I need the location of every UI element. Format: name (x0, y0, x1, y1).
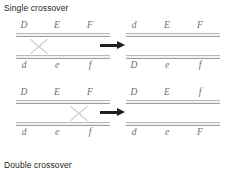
allele-label: f (83, 59, 97, 71)
allele-label: d (127, 19, 141, 31)
allele-row-bottom: d e f (16, 126, 110, 138)
double-crossover-after-panel: D E f d e F (126, 85, 221, 137)
chromosome-bar-top (126, 100, 220, 104)
allele-row-bottom: D e f (126, 59, 220, 71)
allele-label: E (160, 86, 174, 98)
allele-label: e (160, 59, 174, 71)
allele-label: D (17, 19, 31, 31)
allele-row-top: d E F (126, 19, 220, 31)
allele-label: D (127, 86, 141, 98)
allele-label: E (50, 19, 64, 31)
double-crossover-before-panel: D E F d e f (16, 85, 111, 137)
chromosome-bar-top (126, 33, 220, 37)
allele-label: F (193, 126, 207, 138)
crossover-diagram: Single crossover D E F d e f d E F D (0, 0, 226, 178)
allele-row-top: D E F (16, 86, 110, 98)
allele-label: F (83, 19, 97, 31)
allele-label: D (17, 86, 31, 98)
single-crossover-caption: Single crossover (4, 3, 68, 13)
crossover-x-icon (68, 104, 90, 122)
allele-label: D (127, 59, 141, 71)
chromosome-bar-top (16, 100, 110, 104)
allele-label: d (17, 126, 31, 138)
allele-row-top: D E F (16, 19, 110, 31)
allele-label: f (83, 126, 97, 138)
allele-label: e (50, 126, 64, 138)
allele-label: f (193, 86, 207, 98)
double-crossover-caption: Double crossover (4, 160, 72, 170)
allele-row-bottom: d e f (16, 59, 110, 71)
allele-label: d (127, 126, 141, 138)
allele-label: f (193, 59, 207, 71)
allele-label: E (50, 86, 64, 98)
single-crossover-before-panel: D E F d e f (16, 18, 111, 70)
single-crossover-after-panel: d E F D e f (126, 18, 221, 70)
allele-label: e (50, 59, 64, 71)
allele-label: F (83, 86, 97, 98)
allele-row-bottom: d e F (126, 126, 220, 138)
allele-label: E (160, 19, 174, 31)
allele-row-top: D E f (126, 86, 220, 98)
right-arrow-icon (100, 41, 126, 50)
allele-label: d (17, 59, 31, 71)
right-arrow-icon (100, 108, 126, 117)
allele-label: F (193, 19, 207, 31)
allele-label: e (160, 126, 174, 138)
crossover-x-icon (28, 37, 50, 55)
